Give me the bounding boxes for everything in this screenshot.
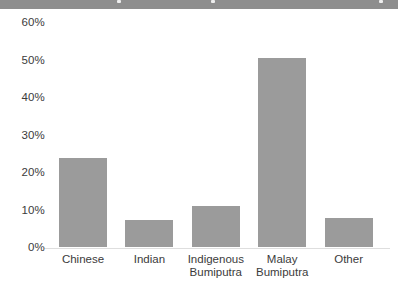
y-axis-tick-label: 60% xyxy=(5,16,45,28)
banner-text-remnant xyxy=(379,0,383,3)
bar-chart: 0%10%20%30%40%50%60% ChineseIndianIndige… xyxy=(0,0,398,297)
y-axis-tick-label: 20% xyxy=(5,166,45,178)
y-axis-tick-label: 30% xyxy=(5,129,45,141)
y-axis-tick-label: 40% xyxy=(5,91,45,103)
y-axis-tick-label: 50% xyxy=(5,54,45,66)
x-axis-category-label: Indigenous Bumiputra xyxy=(188,253,244,279)
cropped-title-banner xyxy=(0,0,398,9)
bar xyxy=(125,220,173,247)
banner-text-remnant xyxy=(211,0,215,3)
x-axis-category-label: Other xyxy=(334,253,363,266)
y-axis-tick-label: 10% xyxy=(5,204,45,216)
bar xyxy=(325,218,373,247)
x-axis-line xyxy=(44,248,390,249)
x-axis-category-label: Malay Bumiputra xyxy=(256,253,308,279)
bar xyxy=(192,206,240,247)
bar xyxy=(59,158,107,247)
x-axis-category-label: Indian xyxy=(134,253,165,266)
y-axis-tick-label: 0% xyxy=(5,241,45,253)
x-axis-category-label: Chinese xyxy=(62,253,104,266)
bar xyxy=(258,58,306,247)
banner-text-remnant xyxy=(117,0,121,3)
